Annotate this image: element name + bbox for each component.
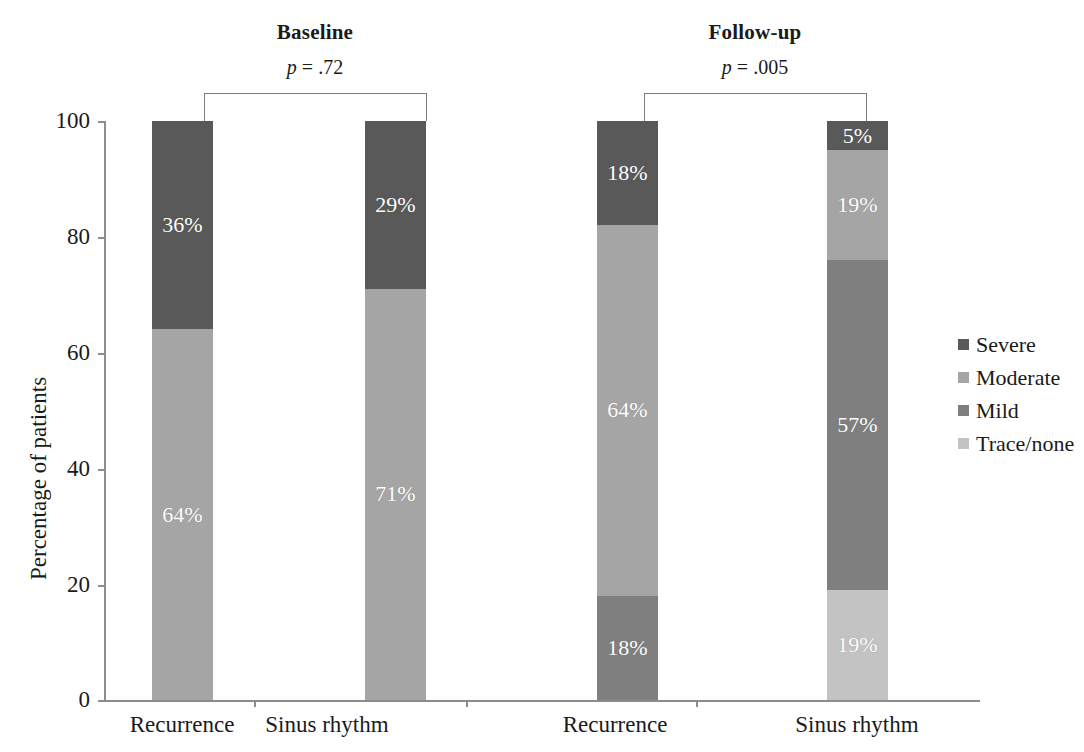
y-axis-title: Percentage of patients xyxy=(26,377,52,580)
x-tick-mark xyxy=(696,700,698,707)
legend-swatch-icon xyxy=(958,339,969,350)
bar-segment-mild: 18% xyxy=(597,596,658,700)
y-tick-label-60: 60 xyxy=(28,340,90,366)
bar-baseline-sinus-rhythm: 29% 71% xyxy=(365,121,426,700)
y-tick-mark xyxy=(98,121,104,123)
bar-segment-moderate: 71% xyxy=(365,289,426,700)
p-symbol-followup: p xyxy=(722,56,732,78)
x-tick-label-followup-sinus: Sinus rhythm xyxy=(767,712,947,738)
legend-label: Trace/none xyxy=(976,433,1074,455)
legend-label: Severe xyxy=(976,334,1036,356)
legend-swatch-icon xyxy=(958,438,969,449)
bar-segment-severe: 18% xyxy=(597,121,658,225)
bar-segment-label: 19% xyxy=(837,194,877,216)
bar-segment-moderate: 64% xyxy=(152,329,213,700)
bar-followup-recurrence: 18% 64% 18% xyxy=(597,121,658,700)
bar-segment-mild: 57% xyxy=(827,260,888,590)
bar-segment-label: 57% xyxy=(837,414,877,436)
x-tick-mark xyxy=(466,700,468,707)
legend-label: Moderate xyxy=(976,367,1060,389)
group-title-followup: Follow-up xyxy=(645,20,865,45)
legend-label: Mild xyxy=(976,400,1019,422)
bar-segment-moderate: 64% xyxy=(597,225,658,596)
bar-segment-severe: 36% xyxy=(152,121,213,329)
legend-item-severe[interactable]: Severe xyxy=(958,328,1074,361)
significance-bracket-followup xyxy=(644,93,867,121)
bar-segment-severe: 5% xyxy=(827,121,888,150)
bar-followup-sinus-rhythm: 5% 19% 57% 19% xyxy=(827,121,888,700)
y-axis-line xyxy=(104,121,106,701)
bar-segment-trace-none: 19% xyxy=(827,590,888,700)
stacked-bar-chart: Baseline p = .72 Follow-up p = .005 100 … xyxy=(0,0,1084,752)
legend-item-moderate[interactable]: Moderate xyxy=(958,361,1074,394)
x-tick-label-followup-recurrence: Recurrence xyxy=(525,712,705,738)
bar-segment-label: 18% xyxy=(607,162,647,184)
bar-segment-label: 5% xyxy=(843,125,872,147)
bar-segment-label: 71% xyxy=(375,483,415,505)
significance-bracket-baseline xyxy=(204,93,427,121)
y-tick-mark xyxy=(98,353,104,355)
p-symbol-baseline: p xyxy=(287,56,297,78)
group-title-baseline: Baseline xyxy=(205,20,425,45)
group-pvalue-followup: p = .005 xyxy=(645,56,865,79)
y-tick-label-0: 0 xyxy=(28,687,90,713)
x-tick-label-baseline-sinus: Sinus rhythm xyxy=(237,712,417,738)
y-tick-mark xyxy=(98,585,104,587)
bar-segment-moderate: 19% xyxy=(827,150,888,260)
legend-swatch-icon xyxy=(958,372,969,383)
bar-segment-label: 64% xyxy=(607,399,647,421)
p-value-followup: = .005 xyxy=(732,56,788,78)
x-tick-mark xyxy=(254,700,256,707)
bar-segment-label: 19% xyxy=(837,634,877,656)
bar-baseline-recurrence: 36% 64% xyxy=(152,121,213,700)
legend-item-trace-none[interactable]: Trace/none xyxy=(958,427,1074,460)
bar-segment-severe: 29% xyxy=(365,121,426,289)
bar-segment-label: 64% xyxy=(162,504,202,526)
legend-swatch-icon xyxy=(958,405,969,416)
y-tick-mark xyxy=(98,469,104,471)
y-tick-mark xyxy=(98,237,104,239)
legend: Severe Moderate Mild Trace/none xyxy=(958,328,1074,460)
bar-segment-label: 18% xyxy=(607,637,647,659)
y-tick-label-80: 80 xyxy=(28,224,90,250)
bar-segment-label: 29% xyxy=(375,194,415,216)
p-value-baseline: = .72 xyxy=(297,56,343,78)
legend-item-mild[interactable]: Mild xyxy=(958,394,1074,427)
group-pvalue-baseline: p = .72 xyxy=(205,56,425,79)
x-axis-line xyxy=(104,700,980,702)
bar-segment-label: 36% xyxy=(162,214,202,236)
y-tick-label-100: 100 xyxy=(28,108,90,134)
